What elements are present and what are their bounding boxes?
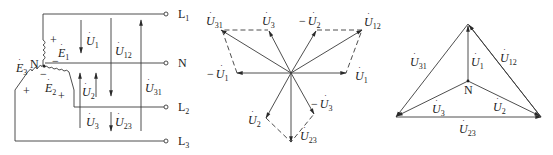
svg-text:·: · — [503, 44, 506, 54]
terminal-l2 — [164, 105, 168, 109]
svg-text:·: · — [88, 27, 91, 37]
svg-text:L2: L2 — [178, 100, 189, 116]
triangle-u12 — [469, 25, 541, 117]
svg-text:U2: U2 — [493, 100, 506, 116]
e1-plus: + — [50, 33, 57, 47]
svg-text:·: · — [88, 108, 91, 118]
coil-e3 — [15, 65, 164, 141]
svg-text:·: · — [117, 37, 120, 47]
svg-text:L1: L1 — [178, 7, 189, 23]
phasor-neg-u2 — [291, 31, 316, 73]
svg-text:·: · — [312, 7, 315, 17]
svg-text:·: · — [324, 90, 327, 100]
terminal-l1-label: L — [178, 7, 185, 21]
triangle-neutral-node — [467, 80, 470, 83]
svg-text:·: · — [462, 115, 465, 125]
svg-text:·: · — [496, 93, 499, 103]
svg-text:·: · — [251, 106, 254, 116]
svg-text:·: · — [435, 95, 438, 105]
terminal-l2-label: L — [178, 100, 185, 114]
terminal-l3-label: L — [178, 134, 185, 148]
e3-label: E3 — [15, 61, 27, 77]
phasor-u12 — [291, 30, 362, 73]
svg-text:·: · — [84, 78, 87, 88]
circuit-diagram: L1 N L2 L3 N + − E1 · − E2 · + E3 · + U1… — [15, 7, 189, 150]
svg-text:·: · — [413, 48, 416, 58]
svg-text:·: · — [117, 108, 120, 118]
svg-text:−U3: −U3 — [311, 97, 332, 113]
construction-u31 — [222, 30, 268, 73]
svg-text:−U1: −U1 — [207, 67, 228, 83]
terminal-l1 — [164, 12, 168, 16]
svg-text:U1: U1 — [471, 55, 484, 71]
e1-label: E1 — [57, 46, 69, 62]
phasor-u2 — [266, 73, 291, 118]
construction-u12 — [317, 30, 362, 73]
svg-text:·: · — [220, 60, 223, 70]
svg-text:·: · — [60, 39, 63, 49]
svg-text:−U2: −U2 — [299, 14, 320, 30]
svg-text:U1: U1 — [355, 69, 368, 85]
svg-text:U2: U2 — [248, 113, 261, 129]
terminal-n — [164, 61, 168, 65]
phasor-diagram-parallelogram: U31 · U3 · −U2 · U12 · −U1 · U1 · U2 · −… — [206, 7, 381, 145]
svg-text:·: · — [303, 122, 306, 132]
svg-text:·: · — [209, 7, 212, 17]
terminal-l3 — [164, 139, 168, 143]
e2-plus: + — [58, 89, 65, 103]
phasor-diagram-triangle: N U31 · U1 · U12 · U3 · U2 · U23 · — [396, 24, 541, 138]
phasor-u31 — [221, 30, 291, 73]
svg-text:L3: L3 — [178, 134, 189, 150]
figure: L1 N L2 L3 N + − E1 · − E2 · + E3 · + U1… — [0, 0, 553, 155]
svg-text:·: · — [474, 48, 477, 58]
coil-e1 — [43, 40, 45, 66]
wire-l1 — [43, 14, 164, 40]
svg-text:U3: U3 — [432, 102, 445, 118]
svg-text:·: · — [147, 74, 150, 84]
triangle-neutral-label: N — [464, 83, 473, 97]
svg-text:·: · — [265, 7, 268, 17]
e3-plus: + — [23, 84, 30, 98]
e2-minus: − — [40, 67, 47, 81]
svg-text:·: · — [367, 8, 370, 18]
svg-text:·: · — [358, 62, 361, 72]
neutral-label: N — [30, 57, 39, 71]
terminal-n-label: N — [178, 56, 187, 70]
e2-label: E2 — [44, 81, 56, 97]
svg-text:·: · — [18, 54, 21, 64]
svg-text:·: · — [47, 74, 50, 84]
svg-text:U3: U3 — [262, 14, 275, 30]
